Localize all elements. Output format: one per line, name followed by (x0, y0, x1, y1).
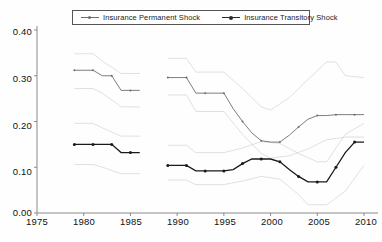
legend-marker-transitory-icon (222, 13, 240, 22)
series-marker (335, 114, 337, 116)
series-marker (278, 160, 281, 163)
series-line (74, 165, 139, 174)
x-tick-label: 1985 (111, 216, 151, 227)
series-marker (129, 151, 132, 154)
series-marker (298, 126, 300, 128)
series-marker (297, 175, 300, 178)
x-tick-label: 2010 (346, 216, 382, 227)
series-marker (204, 92, 206, 94)
legend-item-transitory: Insurance Transitory Shock (222, 11, 337, 24)
series-marker (167, 77, 169, 79)
series-marker (316, 115, 318, 117)
y-tick-label: 0.30 (0, 73, 32, 84)
series-marker (73, 143, 76, 146)
series-marker (260, 158, 263, 161)
series-marker (279, 141, 281, 143)
legend-label-permanent: Insurance Permanent Shock (103, 13, 200, 22)
chart-container: Insurance Permanent Shock Insurance Tran… (0, 0, 382, 242)
series-marker (92, 69, 94, 71)
series-line (74, 89, 139, 107)
series-marker (204, 169, 207, 172)
legend-item-permanent: Insurance Permanent Shock (81, 11, 200, 24)
series-marker (223, 92, 225, 94)
series-line (168, 95, 364, 158)
series-line (168, 78, 364, 143)
series-marker (129, 89, 131, 91)
series-marker (111, 75, 113, 77)
series-marker (222, 169, 225, 172)
series-marker (166, 164, 169, 167)
x-tick-label: 1995 (205, 216, 245, 227)
series-line (74, 123, 139, 136)
y-tick-label: 0.40 (0, 26, 32, 37)
y-tick-label: 0.10 (0, 166, 32, 177)
x-tick-label: 1975 (17, 216, 57, 227)
series-marker (354, 114, 356, 116)
series-marker (241, 162, 244, 165)
series-marker (185, 77, 187, 79)
series-marker (73, 69, 75, 71)
series-marker (242, 121, 244, 123)
series-marker (260, 140, 262, 142)
x-tick-label: 2000 (252, 216, 292, 227)
series-marker (110, 143, 113, 146)
chart-legend: Insurance Permanent Shock Insurance Tran… (72, 10, 310, 25)
chart-plot-area (0, 0, 382, 242)
legend-label-transitory: Insurance Transitory Shock (244, 13, 337, 22)
series-marker (185, 164, 188, 167)
x-tick-label: 2005 (299, 216, 339, 227)
series-marker (92, 143, 95, 146)
x-tick-label: 1990 (158, 216, 198, 227)
legend-marker-permanent-icon (81, 13, 99, 22)
y-tick-label: 0.20 (0, 120, 32, 131)
series-marker (316, 180, 319, 183)
series-marker (353, 141, 356, 144)
x-tick-label: 1980 (64, 216, 104, 227)
series-marker (334, 166, 337, 169)
series-line (168, 58, 364, 110)
series-line (168, 142, 364, 182)
